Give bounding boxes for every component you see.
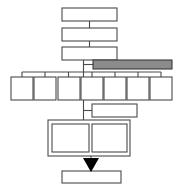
node-top-3[interactable] [62,47,117,60]
node-branch-4[interactable] [81,77,103,100]
arrow-layer [83,158,99,172]
node-branch-6[interactable] [127,77,149,100]
node-inner-right[interactable] [92,124,127,152]
node-bottom[interactable] [62,171,121,183]
arrow-head-icon [83,158,99,172]
node-inner-left[interactable] [52,124,89,152]
node-branch-1[interactable] [11,77,33,100]
node-top-1[interactable] [62,8,117,21]
diagram-canvas [0,0,180,189]
node-branch-3[interactable] [58,77,80,100]
node-offset[interactable] [92,104,137,117]
node-branch-7[interactable] [150,77,172,100]
node-branch-5[interactable] [104,77,126,100]
flowchart-diagram [0,0,180,189]
node-shaded[interactable] [93,60,172,69]
node-top-2[interactable] [62,28,117,41]
node-branch-2[interactable] [34,77,56,100]
